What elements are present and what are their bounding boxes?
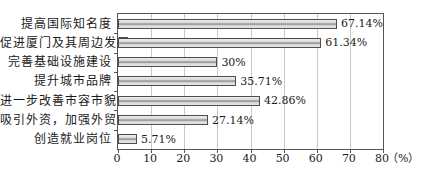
value-label: 30% <box>221 57 245 68</box>
bar-track: 42.86% <box>118 91 383 110</box>
value-label: 35.71% <box>240 76 282 87</box>
bar <box>118 76 236 86</box>
category-label: 促进厦门及其周边发展 <box>0 37 118 49</box>
bar-rows: 提高国际知名度67.14%促进厦门及其周边发展61.34%完善基础设施建设30%… <box>0 14 383 149</box>
value-label: 42.86% <box>264 95 306 106</box>
bar-row: 提高国际知名度67.14% <box>0 14 383 33</box>
x-axis-labels: 01020304050607080（%） <box>117 153 382 167</box>
bar-track: 27.14% <box>118 110 383 129</box>
value-label: 67.14% <box>341 18 383 29</box>
x-tick-label: 20 <box>176 153 190 164</box>
bar <box>118 38 321 48</box>
x-tick-label: 30 <box>209 153 223 164</box>
value-label: 27.14% <box>212 115 254 126</box>
x-axis-unit: （%） <box>387 153 419 164</box>
x-tick-label: 40 <box>243 153 257 164</box>
bar <box>118 115 208 125</box>
bar-track: 35.71% <box>118 72 383 91</box>
bar-row: 进一步改善市容市貌42.86% <box>0 91 383 110</box>
bar-row: 促进厦门及其周边发展61.34% <box>0 33 383 52</box>
category-label: 提高国际知名度 <box>0 18 118 30</box>
bar-track: 67.14% <box>118 14 383 33</box>
bar-track: 30% <box>118 53 383 72</box>
x-tick-label: 50 <box>276 153 290 164</box>
category-label: 进一步改善市容市貌 <box>0 95 118 107</box>
bar <box>118 19 337 29</box>
category-label: 吸引外资，加强外贸 <box>0 114 118 126</box>
category-label: 创造就业岗位 <box>0 133 118 145</box>
x-tick-label: 70 <box>342 153 356 164</box>
category-label: 完善基础设施建设 <box>0 56 118 68</box>
x-tick-label: 0 <box>114 153 121 164</box>
bar-row: 提升城市品牌35.71% <box>0 72 383 91</box>
bar-track: 5.71% <box>118 130 383 149</box>
bar <box>118 134 137 144</box>
bar <box>118 57 217 67</box>
x-tick-label: 10 <box>143 153 157 164</box>
bar-row: 创造就业岗位5.71% <box>0 130 383 149</box>
category-label: 提升城市品牌 <box>0 75 118 87</box>
bar-row: 吸引外资，加强外贸27.14% <box>0 110 383 129</box>
bar-row: 完善基础设施建设30% <box>0 53 383 72</box>
x-tick-label: 60 <box>309 153 323 164</box>
bar <box>118 96 260 106</box>
value-label: 5.71% <box>141 134 176 145</box>
horizontal-bar-chart: 提高国际知名度67.14%促进厦门及其周边发展61.34%完善基础设施建设30%… <box>0 0 423 178</box>
value-label: 61.34% <box>325 37 367 48</box>
bar-track: 61.34% <box>118 33 383 52</box>
